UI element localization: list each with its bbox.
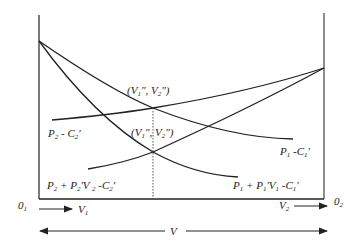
origin-left-label: 01 [18, 199, 27, 213]
origin-right-label: 02 [334, 195, 344, 209]
total-v-label: V [170, 225, 178, 237]
label-p2-plus: P2 + P2′V 2 -C2′ [46, 179, 116, 193]
label-p1-plus: P1 + P1′V1 -C1′ [232, 179, 299, 193]
intersection-label-upper: (V1″, V2″) [127, 84, 170, 98]
label-p1-c1: P1 -C1′ [279, 145, 310, 159]
diagram-canvas: (V1″, V2″) (V1″, V2″) P2 - C2′ P2 + P2′V… [0, 0, 360, 252]
v2-label: V2 [279, 199, 290, 213]
v1-label: V1 [78, 203, 88, 217]
label-p2-c2: P2 - C2′ [47, 127, 81, 141]
intersection-label-lower: (V1″, V2″) [131, 126, 174, 140]
